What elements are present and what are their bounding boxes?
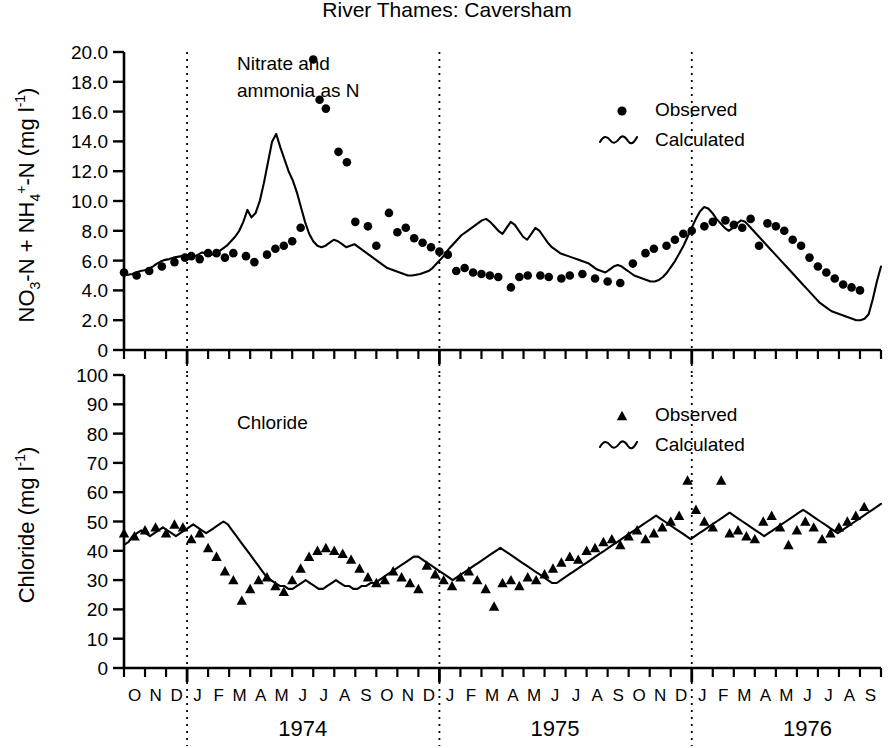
observed-point-chloride	[447, 581, 457, 590]
svg-text:NO3-N + NH4+-N (mg l-1): NO3-N + NH4+-N (mg l-1)	[12, 88, 43, 323]
observed-point-nitrate-ammonia	[250, 258, 259, 267]
observed-point-chloride	[405, 578, 415, 587]
observed-point-nitrate-ammonia	[271, 244, 280, 253]
observed-point-chloride	[640, 534, 650, 543]
y-tick-label-chloride: 50	[87, 512, 108, 533]
observed-point-chloride	[581, 546, 591, 555]
observed-point-chloride	[186, 534, 196, 543]
observed-point-chloride	[211, 551, 221, 560]
legend-top-observed-label: Observed	[655, 99, 737, 120]
observed-point-chloride	[514, 581, 524, 590]
observed-point-chloride	[304, 551, 314, 560]
y-tick-label-nitrate-ammonia: 6.0	[82, 251, 108, 272]
observed-point-chloride	[783, 540, 793, 549]
observed-point-nitrate-ammonia	[629, 259, 638, 268]
x-month-label: J	[572, 686, 581, 705]
observed-point-chloride	[346, 554, 356, 563]
chart-title: River Thames: Caversham	[322, 0, 571, 21]
observed-point-chloride	[758, 516, 768, 525]
observed-point-chloride	[834, 522, 844, 531]
observed-point-chloride	[228, 575, 238, 584]
observed-point-nitrate-ammonia	[280, 241, 289, 250]
observed-point-nitrate-ammonia	[578, 270, 587, 279]
bottom-panel-annotation: Chloride	[237, 412, 308, 433]
observed-point-nitrate-ammonia	[401, 224, 410, 233]
observed-point-nitrate-ammonia	[662, 241, 671, 250]
observed-point-chloride	[531, 575, 541, 584]
y-tick-label-chloride: 0	[97, 658, 108, 679]
observed-point-chloride	[337, 549, 347, 558]
x-month-label: J	[446, 686, 455, 705]
y-tick-label-chloride: 20	[87, 599, 108, 620]
y-tick-label-nitrate-ammonia: 8.0	[82, 221, 108, 242]
observed-point-chloride	[573, 554, 583, 563]
observed-point-nitrate-ammonia	[700, 222, 709, 231]
observed-point-chloride	[150, 522, 160, 531]
legend-top-observed-marker	[617, 106, 626, 115]
observed-point-chloride	[237, 595, 247, 604]
top-panel-annotation-line2: ammonia as N	[237, 80, 360, 101]
observed-point-nitrate-ammonia	[469, 268, 478, 277]
observed-point-nitrate-ammonia	[418, 238, 427, 247]
observed-point-nitrate-ammonia	[221, 253, 230, 262]
observed-point-nitrate-ammonia	[322, 104, 331, 113]
observed-point-nitrate-ammonia	[536, 271, 545, 280]
x-month-label: J	[193, 686, 202, 705]
observed-point-nitrate-ammonia	[797, 241, 806, 250]
observed-point-nitrate-ammonia	[343, 158, 352, 167]
x-month-label: S	[612, 686, 623, 705]
observed-point-nitrate-ammonia	[385, 209, 394, 218]
observed-point-chloride	[548, 563, 558, 572]
observed-point-nitrate-ammonia	[242, 252, 251, 261]
observed-point-nitrate-ammonia	[170, 258, 179, 267]
observed-point-chloride	[523, 572, 533, 581]
observed-point-chloride	[699, 516, 709, 525]
chart-svg: River Thames: Caversham20.018.016.014.01…	[0, 0, 894, 748]
y-tick-label-nitrate-ammonia: 14.0	[71, 131, 108, 152]
observed-point-nitrate-ammonia	[452, 267, 461, 276]
observed-point-nitrate-ammonia	[296, 224, 305, 233]
y-tick-label-nitrate-ammonia: 16.0	[71, 102, 108, 123]
observed-point-nitrate-ammonia	[565, 271, 574, 280]
y-tick-label-chloride: 100	[76, 365, 108, 386]
observed-point-nitrate-ammonia	[460, 264, 469, 273]
observed-point-chloride	[741, 531, 751, 540]
observed-point-chloride	[724, 528, 734, 537]
svg-text:Chloride (mg l-1): Chloride (mg l-1)	[12, 447, 39, 604]
observed-point-nitrate-ammonia	[410, 234, 419, 243]
y-tick-label-nitrate-ammonia: 12.0	[71, 161, 108, 182]
x-month-label: M	[485, 686, 499, 705]
y-tick-label-chloride: 40	[87, 541, 108, 562]
observed-point-nitrate-ammonia	[687, 227, 696, 236]
y-tick-label-chloride: 90	[87, 394, 108, 415]
x-month-label: A	[591, 686, 603, 705]
observed-point-chloride	[750, 534, 760, 543]
observed-point-chloride	[329, 546, 339, 555]
observed-point-nitrate-ammonia	[721, 216, 730, 225]
observed-point-nitrate-ammonia	[772, 222, 781, 231]
x-month-label: F	[466, 686, 476, 705]
observed-point-chloride	[859, 502, 869, 511]
observed-point-nitrate-ammonia	[763, 219, 772, 228]
observed-point-chloride	[674, 510, 684, 519]
observed-point-nitrate-ammonia	[708, 218, 717, 227]
observed-point-chloride	[607, 534, 617, 543]
legend-bottom-calculated-marker	[600, 441, 637, 448]
x-month-label: A	[507, 686, 519, 705]
observed-point-chloride	[842, 516, 852, 525]
y-tick-label-chloride: 70	[87, 453, 108, 474]
y-tick-label-chloride: 80	[87, 424, 108, 445]
x-month-label: N	[654, 686, 666, 705]
observed-point-chloride	[733, 525, 743, 534]
y-tick-label-nitrate-ammonia: 18.0	[71, 72, 108, 93]
observed-point-nitrate-ammonia	[435, 247, 444, 256]
top-panel-annotation-line1: Nitrate and	[237, 53, 330, 74]
observed-point-chloride	[287, 575, 297, 584]
observed-point-nitrate-ammonia	[204, 249, 213, 258]
x-month-label: S	[865, 686, 876, 705]
observed-point-nitrate-ammonia	[814, 262, 823, 271]
y-axis-title-nitrate: NO3-N + NH4+-N (mg l-1)	[12, 88, 43, 323]
observed-point-chloride	[666, 516, 676, 525]
observed-point-nitrate-ammonia	[494, 273, 503, 282]
observed-point-nitrate-ammonia	[444, 250, 453, 259]
